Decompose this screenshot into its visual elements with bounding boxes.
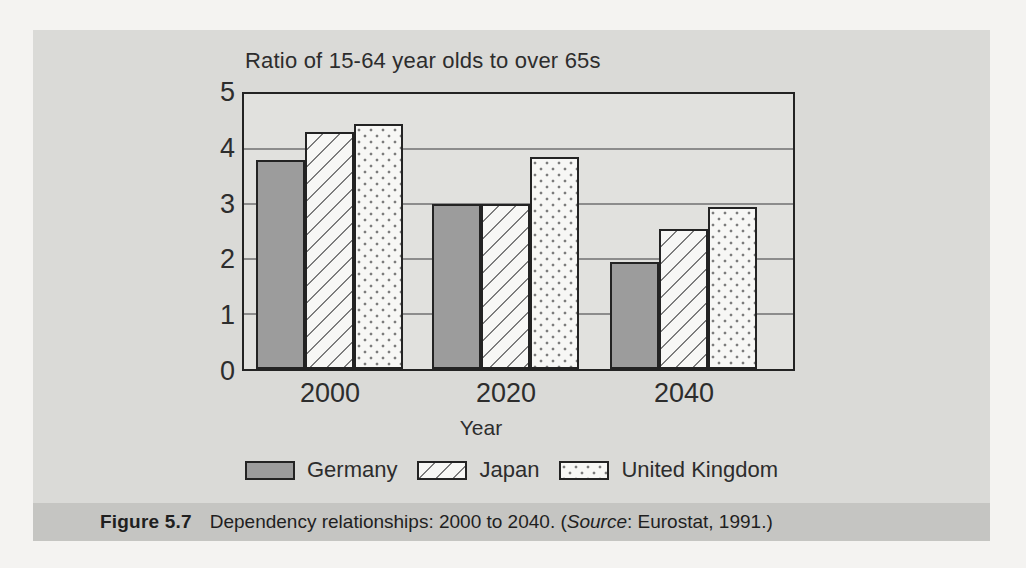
bar-united-kingdom-2040: [708, 207, 757, 369]
bar-germany-2040: [610, 262, 659, 369]
chart-title: Ratio of 15-64 year olds to over 65s: [245, 48, 601, 74]
bar-united-kingdom-2000: [354, 124, 403, 369]
legend-item-japan: Japan: [417, 457, 539, 483]
legend-label-germany: Germany: [307, 457, 397, 483]
x-tick-label-2020: 2020: [446, 378, 566, 409]
bar-united-kingdom-2020: [530, 157, 579, 369]
legend-label-japan: Japan: [479, 457, 539, 483]
x-tick-label-2040: 2040: [624, 378, 744, 409]
figure-caption-source-word: Source: [567, 511, 627, 532]
y-tick-label-4: 4: [173, 133, 235, 163]
legend-swatch-germany: [245, 461, 295, 480]
figure-caption-tail: : Eurostat, 1991.): [627, 511, 773, 532]
legend-label-united-kingdom: United Kingdom: [621, 457, 778, 483]
figure-caption-band: Figure 5.7Dependency relationships: 2000…: [33, 503, 990, 541]
legend-item-germany: Germany: [245, 457, 397, 483]
bar-germany-2020: [432, 204, 481, 369]
legend-swatch-japan: [417, 461, 467, 480]
figure-caption: Figure 5.7Dependency relationships: 2000…: [100, 503, 990, 541]
x-tick-label-2000: 2000: [270, 378, 390, 409]
y-tick-label-1: 1: [173, 300, 235, 330]
bar-japan-2020: [481, 204, 530, 369]
bar-japan-2040: [659, 229, 708, 369]
bar-germany-2000: [256, 160, 305, 369]
figure-caption-label: Figure 5.7: [100, 511, 192, 532]
y-tick-label-5: 5: [173, 77, 235, 107]
legend-item-united-kingdom: United Kingdom: [559, 457, 778, 483]
figure-caption-body: Dependency relationships: 2000 to 2040. …: [210, 511, 567, 532]
x-axis-title: Year: [421, 416, 541, 440]
y-tick-label-2: 2: [173, 244, 235, 274]
plot-area: [242, 92, 795, 371]
figure-panel: Ratio of 15-64 year olds to over 65s 012…: [33, 30, 990, 503]
chart-legend: GermanyJapanUnited Kingdom: [245, 457, 778, 483]
y-tick-label-0: 0: [173, 356, 235, 386]
y-tick-label-3: 3: [173, 189, 235, 219]
bar-japan-2000: [305, 132, 354, 369]
legend-swatch-united-kingdom: [559, 461, 609, 480]
